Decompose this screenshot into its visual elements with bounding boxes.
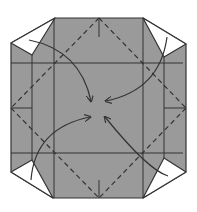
origami-diagram — [0, 0, 197, 212]
